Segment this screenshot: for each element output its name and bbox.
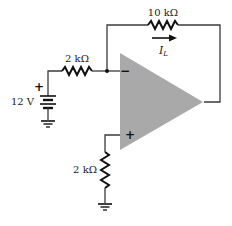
current-arrow-icon (152, 35, 177, 42)
noninverting-input-sign: + (125, 128, 135, 142)
input-wire-left (48, 71, 62, 96)
battery-voltage-label: 12 V (11, 96, 35, 107)
circuit-diagram: 10 kΩ IL 2 kΩ − + 12 V + 2 kΩ (0, 0, 232, 226)
input-resistor-label: 2 kΩ (65, 53, 89, 64)
ground-resistor (101, 152, 109, 188)
input-resistor (62, 67, 92, 75)
noninverting-wire (105, 135, 120, 152)
current-label: IL (158, 44, 168, 58)
inverting-input-sign: − (120, 64, 130, 78)
feedback-resistor-label: 10 kΩ (148, 7, 178, 18)
junction-dot (105, 69, 109, 73)
ground-icon (41, 121, 55, 127)
battery-plus-sign: + (34, 80, 44, 94)
feedback-resistor (148, 21, 178, 29)
ground-icon (98, 204, 112, 210)
battery-icon (40, 96, 56, 108)
ground-resistor-label: 2 kΩ (73, 164, 97, 175)
feedback-wire-right (178, 25, 220, 102)
